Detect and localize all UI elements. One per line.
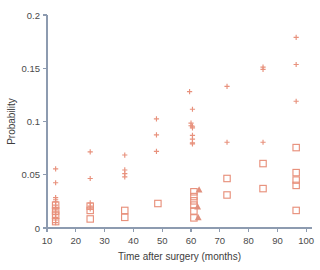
marker-square [224, 192, 230, 198]
x-tick-label: 30 [99, 235, 110, 246]
marker-plus [260, 140, 265, 145]
marker-plus [224, 140, 229, 145]
marker-square [191, 198, 197, 204]
y-tick-label: 0.15 [22, 63, 41, 74]
y-tick-label: 0.1 [27, 116, 40, 127]
x-tick-label: 20 [71, 235, 82, 246]
marker-square [293, 144, 299, 150]
x-tick-label: 80 [243, 235, 254, 246]
x-tick-label: 90 [272, 235, 283, 246]
marker-square [155, 200, 161, 206]
x-tick-label: 60 [186, 235, 197, 246]
scatter-chart: 00.050.10.150.2102030405060708090100Time… [0, 0, 320, 270]
marker-plus [122, 174, 127, 179]
series-square [52, 144, 299, 224]
x-tick-label: 10 [42, 235, 53, 246]
marker-plus [294, 35, 299, 40]
x-tick-label: 50 [157, 235, 168, 246]
x-axis-title: Time after surgery (months) [118, 251, 241, 262]
marker-plus [154, 132, 159, 137]
marker-square [224, 175, 230, 181]
marker-plus [154, 116, 159, 121]
marker-square [293, 169, 299, 175]
marker-square [191, 193, 197, 199]
marker-plus [88, 176, 93, 181]
plot-area: 00.050.10.150.2102030405060708090100Time… [0, 0, 320, 270]
y-tick-label: 0 [35, 223, 40, 234]
x-tick-label: 70 [215, 235, 226, 246]
marker-plus [154, 149, 159, 154]
marker-plus [224, 84, 229, 89]
y-axis-title: Probability [6, 98, 17, 145]
marker-square [293, 207, 299, 213]
x-tick-label: 40 [128, 235, 139, 246]
x-tick-label: 100 [298, 235, 314, 246]
marker-plus [294, 62, 299, 67]
marker-square [260, 160, 266, 166]
marker-square [87, 216, 93, 222]
marker-square [122, 214, 128, 220]
marker-plus [294, 99, 299, 104]
y-tick-label: 0.05 [22, 169, 41, 180]
marker-plus [190, 141, 195, 146]
y-tick-label: 0.2 [27, 10, 40, 21]
marker-plus [122, 152, 127, 157]
marker-square [122, 207, 128, 213]
series-plus [53, 35, 299, 226]
marker-plus [53, 180, 58, 185]
marker-plus [53, 166, 58, 171]
marker-plus [187, 89, 192, 94]
marker-square [260, 185, 266, 191]
marker-plus [88, 149, 93, 154]
marker-plus [190, 107, 195, 112]
